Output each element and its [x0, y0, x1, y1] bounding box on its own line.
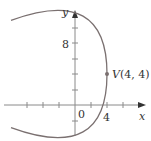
- chart-canvas: y x 8 0 4 V(4, 4): [0, 0, 151, 141]
- y-axis-label: y: [61, 6, 69, 19]
- vertex-point: [105, 72, 109, 76]
- parabola-curve: [11, 10, 107, 137]
- y-tick-label-8: 8: [62, 38, 69, 51]
- vertex-label-coords: (4, 4): [120, 68, 150, 81]
- parabola-chart: y x 8 0 4 V(4, 4): [0, 0, 151, 141]
- origin-label: 0: [78, 108, 85, 121]
- x-tick-label-4: 4: [103, 111, 110, 124]
- vertex-label: V(4, 4): [112, 68, 150, 81]
- x-axis-arrow-icon: [138, 102, 146, 108]
- x-axis-label: x: [139, 110, 146, 123]
